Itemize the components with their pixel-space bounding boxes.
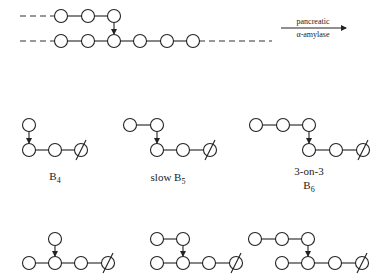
label-slow-b5: slow B5: [151, 171, 186, 186]
product-b7-alt: [249, 233, 369, 274]
glucose-residue: [151, 119, 164, 132]
glucose-residue: [82, 10, 95, 23]
glucose-residue: [177, 233, 190, 246]
glucose-residue: [203, 257, 216, 270]
label-3-on-3: 3-on-3: [294, 165, 324, 177]
glucose-residue: [23, 144, 36, 157]
glucose-residue: [151, 144, 164, 157]
limit-dextrin-products: [23, 119, 370, 274]
product-b6: [250, 119, 370, 161]
glucose-residue: [55, 10, 68, 23]
product-b5: [124, 119, 217, 161]
glucose-residue: [277, 119, 290, 132]
glucose-residue: [302, 233, 315, 246]
glucose-residue: [124, 119, 137, 132]
glucose-residue: [276, 257, 289, 270]
glucose-residue: [23, 257, 36, 270]
glucose-residue: [134, 35, 147, 48]
glucose-residue: [250, 119, 263, 132]
product-b4: [23, 119, 88, 161]
glucose-residue: [151, 257, 164, 270]
label-b4: B4: [49, 170, 60, 185]
glucose-residue: [55, 35, 68, 48]
glucose-residue: [151, 233, 164, 246]
glucose-residue: [329, 257, 342, 270]
glucose-residue: [49, 233, 62, 246]
branched-glucan-diagram: pancreatic α-amylase B4 slow B5 3-on-3 B…: [0, 0, 383, 275]
glucose-residue: [302, 257, 315, 270]
product-b6-alt: [151, 233, 243, 274]
reaction-arrow: pancreatic α-amylase: [281, 17, 346, 39]
glucose-residue: [49, 144, 62, 157]
glucose-residue: [108, 10, 121, 23]
product-b5-alt: [23, 233, 115, 274]
glucose-residue: [187, 35, 200, 48]
enzyme-label-line2: α-amylase: [296, 30, 330, 39]
substrate-polysaccharide: [20, 10, 272, 48]
glucose-residue: [49, 257, 62, 270]
glucose-residue: [330, 144, 343, 157]
glucose-residue: [82, 35, 95, 48]
glucose-residue: [276, 233, 289, 246]
glucose-residue: [177, 257, 190, 270]
glucose-residue: [303, 119, 316, 132]
glucose-residue: [108, 35, 121, 48]
glucose-residue: [303, 144, 316, 157]
glucose-residue: [23, 119, 36, 132]
glucose-residue: [75, 257, 88, 270]
enzyme-label-line1: pancreatic: [297, 17, 330, 26]
glucose-residue: [177, 144, 190, 157]
glucose-residue: [161, 35, 174, 48]
glucose-residue: [249, 233, 262, 246]
label-b6: B6: [303, 179, 314, 194]
